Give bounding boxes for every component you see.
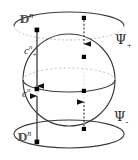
psi-plus-base: Ψ xyxy=(115,32,126,47)
label-disk-bottom: Dn xyxy=(18,130,31,143)
point-equator-left xyxy=(35,87,40,92)
disk-top-sup: n xyxy=(29,11,33,20)
cell-upper-sub: + xyxy=(32,51,37,58)
disk-bottom-sup: n xyxy=(27,129,31,138)
label-cell-upper: cn+ xyxy=(24,45,37,56)
cell-lower-sub: - xyxy=(30,94,32,101)
psi-plus-sub: + xyxy=(126,41,131,50)
psi-minus-base: Ψ xyxy=(114,109,125,124)
point-lower-right-sphere xyxy=(82,89,86,93)
point-bottom-left-rim xyxy=(35,140,40,145)
point-top-right-disk xyxy=(82,16,86,20)
label-disk-top: Dn xyxy=(20,12,33,25)
label-cell-lower: cn- xyxy=(22,88,33,99)
figure-container: Dn Dn cn+ cn- Ψ+ Ψ- xyxy=(0,0,138,160)
label-map-lower: Ψ- xyxy=(114,110,128,123)
label-map-upper: Ψ+ xyxy=(115,33,132,46)
point-upper-right-sphere xyxy=(82,55,86,59)
cell-upper-sup: n xyxy=(29,43,32,50)
cell-lower-sup: n xyxy=(27,86,30,93)
point-bottom-right-disk xyxy=(82,127,86,131)
top-disk-back-rim xyxy=(14,26,124,40)
psi-minus-sub: - xyxy=(125,118,128,127)
point-top-left-rim xyxy=(35,28,40,33)
disk-top-base: D xyxy=(20,12,29,25)
disk-bottom-base: D xyxy=(18,130,27,143)
